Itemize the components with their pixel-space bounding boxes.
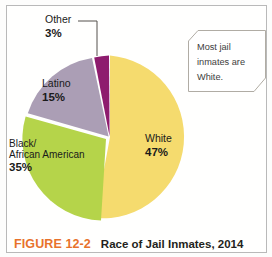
callout-text: Most jail inmates are White.	[197, 40, 259, 85]
slice-label-white: White 47%	[145, 133, 172, 159]
slice-label-white-value: 47%	[145, 146, 172, 159]
figure-card: Other 3% Latino 15% Black/ African Ameri…	[0, 0, 272, 257]
pie-chart: Other 3% Latino 15% Black/ African Ameri…	[0, 0, 272, 234]
figure-number: FIGURE 12-2	[14, 237, 91, 251]
slice-label-latino-name: Latino	[42, 78, 71, 90]
slice-label-other: Other 3%	[45, 14, 71, 40]
callout-box: Most jail inmates are White.	[188, 30, 266, 92]
figure-title: Race of Jail Inmates, 2014	[101, 238, 244, 250]
slice-label-other-value: 3%	[45, 27, 71, 40]
slice-label-black-african-american: Black/ African American 35%	[9, 138, 85, 174]
slice-label-other-name: Other	[45, 14, 71, 26]
slice-label-white-name: White	[145, 133, 172, 145]
slice-label-black-line2: African American	[9, 149, 85, 160]
slice-label-latino: Latino 15%	[42, 78, 71, 104]
figure-caption: FIGURE 12-2 Race of Jail Inmates, 2014	[14, 237, 243, 251]
other-leader-line	[78, 21, 97, 56]
slice-label-black-value: 35%	[9, 161, 85, 174]
slice-label-latino-value: 15%	[42, 91, 71, 104]
slice-label-black-line1: Black/	[9, 138, 85, 149]
